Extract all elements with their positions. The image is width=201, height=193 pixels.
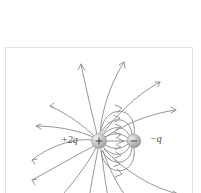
negative-charge-label: −q — [150, 133, 162, 144]
arrowhead — [115, 152, 121, 158]
field-line — [50, 106, 94, 136]
field-line — [81, 64, 97, 134]
figure-frame: +2q −q — [5, 47, 193, 193]
field-line — [32, 146, 94, 180]
positive-charge-label: +2q — [61, 134, 78, 145]
field-line — [102, 82, 160, 135]
field-line — [88, 149, 98, 193]
field-line — [103, 151, 134, 193]
arrowhead — [115, 124, 121, 130]
field-line — [104, 149, 178, 193]
electric-field-diagram — [6, 48, 192, 193]
arrowhead — [50, 103, 54, 108]
arrowhead — [32, 179, 37, 185]
figure-container: +2q −q — [0, 0, 201, 193]
arrowhead — [32, 159, 37, 164]
